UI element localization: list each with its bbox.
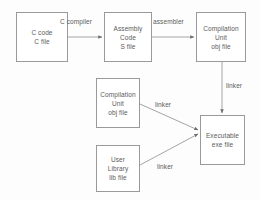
node-compilation-unit-mid-line-3: obj file (108, 108, 128, 117)
node-executable: Executable exe file (200, 115, 245, 165)
edge-label-c-compiler: C compiler (60, 18, 92, 26)
node-assembly-code-line-2: Code (120, 33, 136, 42)
node-compilation-unit-top-line-3: obj file (211, 42, 231, 51)
edge-label-linker-lower-diagonal: linker (157, 163, 173, 171)
compilation-process-diagram: C code C file Assembly Code S file Compi… (0, 0, 260, 200)
node-executable-line-1: Executable (206, 131, 239, 140)
edge-label-assembler: assembler (153, 18, 184, 26)
node-assembly-code-line-3: S file (120, 42, 135, 51)
node-user-library-line-1: User (111, 155, 125, 164)
node-assembly-code-line-1: Assembly (114, 24, 143, 33)
node-user-library-line-3: lib file (109, 173, 126, 182)
node-compilation-unit-mid-line-1: Compilation (100, 90, 135, 99)
node-compilation-unit-top: Compilation Unit obj file (196, 12, 246, 62)
edge-label-linker-upper-diagonal: linker (155, 101, 171, 109)
node-c-source-line-2: C file (34, 37, 49, 46)
node-compilation-unit-mid-line-2: Unit (112, 99, 124, 108)
edge-linker-lower-diagonal (140, 134, 198, 165)
node-executable-line-2: exe file (212, 140, 233, 149)
edge-label-linker-vertical: linker (226, 82, 242, 90)
node-assembly-code: Assembly Code S file (104, 12, 152, 62)
node-compilation-unit-top-line-1: Compilation (203, 24, 238, 33)
node-compilation-unit-top-line-2: Unit (215, 33, 227, 42)
node-user-library: User Library lib file (96, 145, 140, 192)
node-user-library-line-2: Library (108, 164, 129, 173)
node-compilation-unit-mid: Compilation Unit obj file (96, 78, 140, 128)
node-c-source-line-1: C code (31, 28, 52, 37)
